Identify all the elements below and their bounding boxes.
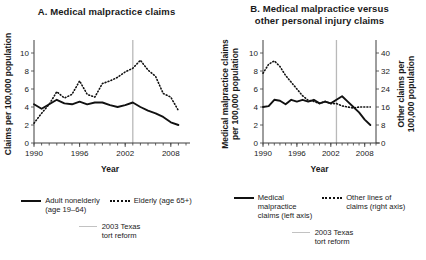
svg-text:0: 0: [254, 139, 259, 148]
panel-b-title: B. Medical malpractice versusother perso…: [213, 3, 426, 27]
svg-text:0: 0: [25, 139, 30, 148]
svg-text:2: 2: [254, 121, 259, 130]
svg-text:per 100,000 population: per 100,000 population: [230, 48, 240, 140]
panel-a-plot: 02468101990199620022008YearClaims per 10…: [0, 30, 213, 180]
svg-text:Medical malpractice claims: Medical malpractice claims: [220, 39, 230, 149]
dotted-line-swatch-icon: [322, 197, 342, 199]
legend-entry-elderly: Elderly (age 65+): [110, 196, 192, 205]
legend-entry-adult-nonelderly: Adult nonelderly(age 19–64): [21, 196, 99, 214]
panel-b-legend: Medicalmalpracticeclaims (left axis) Oth…: [213, 193, 426, 246]
panel-a-svg: 02468101990199620022008YearClaims per 10…: [0, 30, 213, 180]
series-solid: [34, 100, 178, 125]
svg-text:6: 6: [254, 85, 259, 94]
series-solid: [263, 96, 370, 125]
grey-vline-swatch-icon: [292, 232, 310, 233]
svg-text:1996: 1996: [71, 149, 89, 158]
solid-line-swatch-icon: [234, 197, 254, 199]
y-axis-title-left: Medical malpractice claimsper 100,000 po…: [220, 39, 240, 149]
svg-text:8: 8: [25, 67, 30, 76]
panel-b-plot: 024681008162432401990199620022008YearMed…: [213, 30, 426, 180]
dotted-line-swatch-icon: [110, 200, 130, 202]
svg-text:2008: 2008: [162, 149, 180, 158]
svg-text:8: 8: [254, 67, 259, 76]
svg-text:10: 10: [20, 49, 29, 58]
svg-text:16: 16: [381, 103, 390, 112]
legend-label-tort-reform-a: 2003 Texastort reform: [102, 222, 141, 240]
svg-text:100,000 population: 100,000 population: [406, 56, 416, 133]
panel-b-svg: 024681008162432401990199620022008YearMed…: [213, 30, 426, 180]
svg-text:1990: 1990: [254, 149, 272, 158]
svg-text:40: 40: [381, 49, 390, 58]
solid-line-swatch-icon: [21, 200, 41, 202]
y-axis-title-left: Claims per 100,000 population: [3, 33, 13, 155]
legend-label-malpractice-claims: Medicalmalpracticeclaims (left axis): [258, 193, 312, 220]
svg-text:8: 8: [381, 121, 386, 130]
svg-text:Other claims per: Other claims per: [396, 60, 406, 128]
legend-entry-other-claims: Other lines ofclaims (right axis): [322, 193, 405, 211]
legend-entry-malpractice-claims: Medicalmalpracticeclaims (left axis): [234, 193, 312, 220]
legend-label-tort-reform-b: 2003 Texastort reform: [315, 228, 354, 246]
x-axis-title: Year: [311, 164, 330, 174]
grey-vline-swatch-icon: [79, 226, 97, 227]
figure-container: A. Medical malpractice claims 0246810199…: [0, 0, 426, 260]
svg-text:0: 0: [381, 139, 386, 148]
svg-text:2: 2: [25, 121, 30, 130]
legend-label-elderly: Elderly (age 65+): [134, 196, 192, 205]
y-axis-title-right: Other claims per100,000 population: [396, 56, 416, 133]
svg-text:2002: 2002: [322, 149, 340, 158]
svg-text:2008: 2008: [356, 149, 374, 158]
legend-label-adult-nonelderly: Adult nonelderly(age 19–64): [45, 196, 99, 214]
svg-text:4: 4: [254, 103, 259, 112]
svg-text:4: 4: [25, 103, 30, 112]
svg-text:10: 10: [249, 49, 258, 58]
panel-a-legend: Adult nonelderly(age 19–64) Elderly (age…: [0, 196, 213, 240]
svg-text:1996: 1996: [288, 149, 306, 158]
x-axis-title: Year: [101, 164, 120, 174]
svg-text:1990: 1990: [25, 149, 43, 158]
legend-label-other-claims: Other lines ofclaims (right axis): [346, 193, 405, 211]
svg-text:24: 24: [381, 85, 390, 94]
svg-text:32: 32: [381, 67, 390, 76]
panel-b: B. Medical malpractice versusother perso…: [213, 0, 426, 260]
panel-a: A. Medical malpractice claims 0246810199…: [0, 0, 213, 260]
panel-a-title: A. Medical malpractice claims: [0, 6, 213, 18]
svg-text:2002: 2002: [116, 149, 134, 158]
svg-text:6: 6: [25, 85, 30, 94]
